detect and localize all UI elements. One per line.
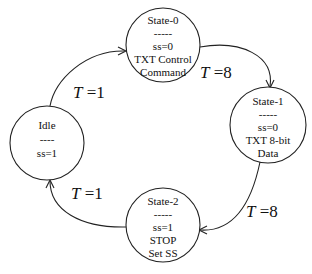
state-diagram: State-0 ----- ss=0 TXT Control Command S… xyxy=(0,0,312,274)
svg-text:-----: ----- xyxy=(154,208,173,220)
edge-label-state2-to-idle: T =1 xyxy=(71,184,103,203)
edge-label-state1-to-state2: T =8 xyxy=(246,202,278,221)
edge-label-idle-to-state0: T =1 xyxy=(73,83,105,102)
svg-text:Set SS: Set SS xyxy=(148,247,177,259)
state-action-2: Data xyxy=(258,147,279,159)
svg-text:-----: ----- xyxy=(154,27,173,39)
svg-text:TXT Control: TXT Control xyxy=(134,53,192,65)
state-title: Idle xyxy=(38,119,55,131)
state-title: State-2 xyxy=(147,195,178,207)
state-action: TXT Control xyxy=(134,53,192,65)
svg-text:State-0: State-0 xyxy=(147,14,179,26)
svg-text:ss=0: ss=0 xyxy=(258,121,279,133)
svg-text:ss=1: ss=1 xyxy=(153,221,173,233)
state-action: TXT 8-bit xyxy=(246,134,291,146)
state-action: STOP xyxy=(150,234,177,246)
state-separator: ----- xyxy=(154,27,173,39)
svg-text:STOP: STOP xyxy=(150,234,177,246)
svg-text:State-2: State-2 xyxy=(147,195,178,207)
state-node-state0: State-0 ----- ss=0 TXT Control Command xyxy=(126,8,200,82)
state-separator: ---- xyxy=(40,133,55,145)
state-ss: ss=0 xyxy=(153,40,174,52)
svg-text:Idle: Idle xyxy=(38,119,55,131)
svg-text:State-1: State-1 xyxy=(252,95,283,107)
state-node-state1: State-1 ----- ss=0 TXT 8-bit Data xyxy=(230,87,306,163)
state-separator: ----- xyxy=(259,108,278,120)
svg-text:TXT 8-bit: TXT 8-bit xyxy=(246,134,291,146)
state-ss: ss=0 xyxy=(258,121,279,133)
state-ss: ss=1 xyxy=(153,221,173,233)
svg-text:----: ---- xyxy=(40,133,55,145)
edge-label-state0-to-state1: T =8 xyxy=(200,63,232,82)
state-node-state2: State-2 ----- ss=1 STOP Set SS xyxy=(126,188,200,262)
state-title: State-0 xyxy=(147,14,179,26)
state-action-2: Command xyxy=(140,66,186,78)
state-separator: ----- xyxy=(154,208,173,220)
state-node-idle: Idle ---- ss=1 xyxy=(10,106,84,180)
svg-text:ss=1: ss=1 xyxy=(37,147,57,159)
svg-text:-----: ----- xyxy=(259,108,278,120)
svg-text:ss=0: ss=0 xyxy=(153,40,174,52)
state-ss: ss=1 xyxy=(37,147,57,159)
state-title: State-1 xyxy=(252,95,283,107)
svg-text:Data: Data xyxy=(258,147,279,159)
transition-state1-to-state2 xyxy=(199,162,260,234)
svg-text:Command: Command xyxy=(140,66,186,78)
state-action-2: Set SS xyxy=(148,247,177,259)
